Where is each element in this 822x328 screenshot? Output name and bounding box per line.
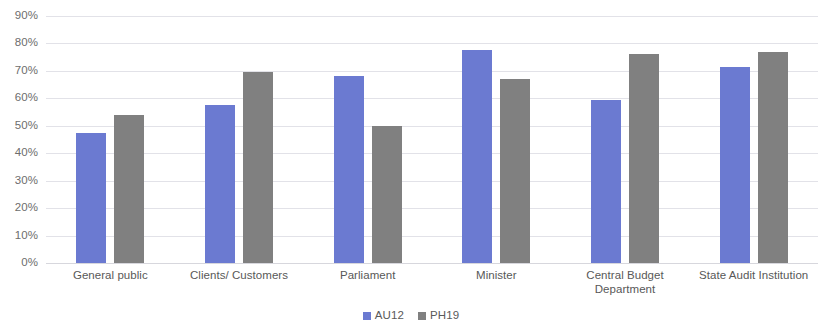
bar-au12[interactable]: [462, 50, 492, 263]
legend-item[interactable]: AU12: [363, 310, 404, 322]
category-label: Parliament: [303, 266, 432, 310]
bar-chart: 90%80%70%60%50%40%30%20%10%0% General pu…: [0, 0, 822, 328]
bar-au12[interactable]: [720, 67, 750, 263]
category-label: State Audit Institution: [689, 266, 818, 310]
axis-baseline: [46, 263, 818, 264]
bar-group: [689, 16, 818, 263]
x-axis-category-labels: General publicClients/ CustomersParliame…: [46, 266, 818, 310]
category-label: Minister: [432, 266, 561, 310]
bars: [303, 16, 432, 263]
y-tick-label: 30%: [15, 175, 38, 187]
legend-label: PH19: [430, 310, 459, 322]
bars: [689, 16, 818, 263]
y-tick-label: 40%: [15, 147, 38, 159]
bar-group: [175, 16, 304, 263]
bars: [561, 16, 690, 263]
y-tick-label: 0%: [21, 257, 38, 269]
bar-au12[interactable]: [205, 105, 235, 263]
bars: [175, 16, 304, 263]
legend-item[interactable]: PH19: [418, 310, 459, 322]
category-label: Clients/ Customers: [175, 266, 304, 310]
bar-ph19[interactable]: [372, 126, 402, 263]
y-tick-label: 50%: [15, 120, 38, 132]
y-tick-label: 90%: [15, 10, 38, 22]
bar-ph19[interactable]: [629, 54, 659, 263]
legend-swatch-ph19-icon: [418, 312, 426, 320]
bars: [432, 16, 561, 263]
y-tick-label: 10%: [15, 230, 38, 242]
y-tick-label: 80%: [15, 37, 38, 49]
bar-group: [432, 16, 561, 263]
bar-group: [46, 16, 175, 263]
y-tick-label: 60%: [15, 92, 38, 104]
category-label: General public: [46, 266, 175, 310]
legend-label: AU12: [375, 310, 404, 322]
bar-groups: [46, 16, 818, 263]
bar-au12[interactable]: [76, 133, 106, 263]
bar-group: [561, 16, 690, 263]
bar-ph19[interactable]: [500, 79, 530, 263]
y-tick-label: 20%: [15, 202, 38, 214]
legend-swatch-au12-icon: [363, 312, 371, 320]
bar-au12[interactable]: [334, 76, 364, 263]
bar-ph19[interactable]: [758, 52, 788, 263]
y-tick-label: 70%: [15, 65, 38, 77]
bar-ph19[interactable]: [243, 72, 273, 263]
bars: [46, 16, 175, 263]
bar-au12[interactable]: [591, 100, 621, 263]
y-axis: 90%80%70%60%50%40%30%20%10%0%: [0, 0, 42, 270]
plot-area: [46, 16, 818, 263]
bar-group: [303, 16, 432, 263]
category-label: Central Budget Department: [561, 266, 690, 310]
chart-legend: AU12PH19: [0, 310, 822, 322]
bar-ph19[interactable]: [114, 115, 144, 263]
